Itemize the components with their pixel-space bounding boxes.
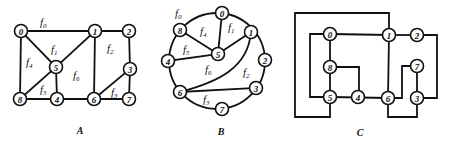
vertex-8: 8 xyxy=(174,24,187,37)
face-label-f0: f0 xyxy=(175,7,182,21)
face-label-f5: f5 xyxy=(183,43,190,57)
vertex-6: 6 xyxy=(88,93,101,106)
face-label-f0: f0 xyxy=(40,16,47,30)
vertex-label: 2 xyxy=(262,56,268,66)
vertex-4: 4 xyxy=(162,55,175,68)
vertex-label: 5 xyxy=(216,50,221,60)
orthogonal-edge xyxy=(330,34,389,35)
vertex-label: 7 xyxy=(127,95,132,105)
edge-6-1 xyxy=(94,31,95,99)
face-label-f6: f6 xyxy=(73,69,80,83)
graph-panel-b: f0f1f2f3f4f5f6012345678B xyxy=(162,7,272,138)
vertex-label: 1 xyxy=(249,28,254,38)
edge-1-5 xyxy=(56,31,95,67)
face-label-f2: f2 xyxy=(243,66,250,80)
vertex-4: 4 xyxy=(352,91,365,104)
graph-panel-c: 012345678C xyxy=(295,13,437,138)
vertex-6: 6 xyxy=(382,92,395,105)
vertex-0: 0 xyxy=(15,25,28,38)
vertex-2: 2 xyxy=(123,25,136,38)
vertex-1: 1 xyxy=(89,25,102,38)
vertex-4: 4 xyxy=(51,93,64,106)
face-label-f2: f2 xyxy=(107,42,114,56)
vertex-5: 5 xyxy=(324,91,337,104)
vertex-3: 3 xyxy=(124,63,137,76)
vertex-label: 1 xyxy=(387,31,392,41)
vertex-label: 0 xyxy=(220,9,225,19)
vertex-7: 7 xyxy=(411,60,424,73)
vertex-label: 0 xyxy=(19,27,24,37)
vertex-5: 5 xyxy=(50,61,63,74)
vertex-2: 2 xyxy=(411,29,424,42)
face-label-f4: f4 xyxy=(26,56,33,70)
orthogonal-edge xyxy=(388,35,389,98)
vertex-0: 0 xyxy=(216,7,229,20)
face-label-f3: f3 xyxy=(203,93,210,107)
edge-4-5 xyxy=(168,54,218,61)
vertex-label: 3 xyxy=(127,65,133,75)
vertex-8: 8 xyxy=(14,93,27,106)
graph-panel-a: f0f1f2f3f4f5f6012345678A xyxy=(14,16,137,136)
vertex-1: 1 xyxy=(245,26,258,39)
vertex-label: 5 xyxy=(328,93,333,103)
vertex-label: 1 xyxy=(93,27,98,37)
vertex-label: 7 xyxy=(415,62,420,72)
face-label-f5: f5 xyxy=(40,83,47,97)
vertex-5: 5 xyxy=(212,48,225,61)
vertex-label: 0 xyxy=(328,30,333,40)
vertex-label: 6 xyxy=(178,88,183,98)
vertex-label: 6 xyxy=(92,95,97,105)
vertex-label: 4 xyxy=(165,57,171,67)
vertex-label: 6 xyxy=(386,94,391,104)
face-label-f6: f6 xyxy=(205,63,212,77)
vertex-7: 7 xyxy=(123,93,136,106)
vertex-label: 2 xyxy=(414,31,420,41)
vertex-3: 3 xyxy=(250,82,263,95)
panel-caption-a: A xyxy=(76,125,84,136)
vertex-2: 2 xyxy=(259,54,272,67)
vertex-label: 4 xyxy=(54,95,60,105)
vertex-label: 8 xyxy=(328,63,333,73)
vertex-7: 7 xyxy=(216,103,229,116)
vertex-label: 4 xyxy=(355,93,361,103)
vertex-8: 8 xyxy=(324,61,337,74)
vertex-label: 3 xyxy=(414,94,420,104)
edge-1-6 xyxy=(180,32,251,92)
vertex-1: 1 xyxy=(383,29,396,42)
vertex-3: 3 xyxy=(411,92,424,105)
panel-caption-c: C xyxy=(357,127,364,138)
face-label-f1: f1 xyxy=(51,43,58,57)
vertex-label: 5 xyxy=(54,63,59,73)
vertex-0: 0 xyxy=(324,28,337,41)
face-label-f4: f4 xyxy=(200,25,207,39)
face-label-f3: f3 xyxy=(111,86,118,100)
panel-caption-b: B xyxy=(217,126,225,137)
vertex-label: 8 xyxy=(178,26,183,36)
vertex-label: 2 xyxy=(126,27,132,37)
edge-0-8 xyxy=(20,31,21,99)
face-label-f1: f1 xyxy=(228,21,235,35)
vertex-label: 7 xyxy=(220,105,225,115)
planar-graph-figure: f0f1f2f3f4f5f6012345678A f0f1f2f3f4f5f60… xyxy=(0,0,453,144)
vertex-6: 6 xyxy=(174,86,187,99)
vertex-label: 8 xyxy=(18,95,23,105)
vertex-label: 3 xyxy=(253,84,259,94)
